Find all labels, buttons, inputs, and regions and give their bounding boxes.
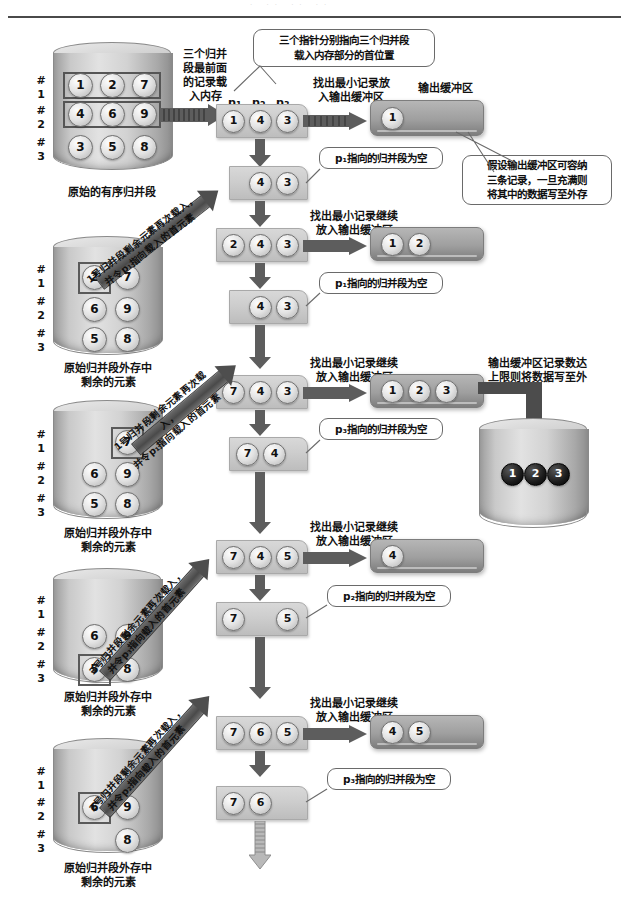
arrow-down xyxy=(249,201,271,227)
callout-three-pointers: 三个指针分别指向三个归并段 载入内存部分的首位置 xyxy=(253,29,435,67)
seg-marker: # xyxy=(34,828,48,842)
seg-marker: 2 xyxy=(34,118,48,132)
record: 4 xyxy=(249,546,272,569)
arrow-to-output-4 xyxy=(303,549,367,567)
callout-leader xyxy=(306,605,330,621)
arrow-down xyxy=(249,575,271,601)
disk-caption: 原始归并段外存中 剩余的元素 xyxy=(40,527,176,555)
seg-marker: 3 xyxy=(34,341,48,355)
record: 5 xyxy=(276,722,299,745)
seg-marker: # xyxy=(34,460,48,474)
arrow-to-output-5 xyxy=(303,725,367,743)
record: 1 xyxy=(68,73,93,98)
record: 5 xyxy=(276,546,299,569)
record: 8 xyxy=(132,135,157,160)
seg-marker: # xyxy=(34,295,48,309)
record: 7 xyxy=(132,73,157,98)
seg-marker: # xyxy=(34,658,48,672)
record: 1 xyxy=(222,110,245,133)
seg-marker: 3 xyxy=(34,842,48,856)
callout-leader xyxy=(306,293,324,309)
record: 7 xyxy=(236,443,259,466)
callout-p1-empty-1: p₁指向的归并段为空 xyxy=(319,147,443,169)
seg-marker: 1 xyxy=(34,277,48,291)
disk-caption-initial: 原始的有序归并段 xyxy=(42,186,182,200)
record: 3 xyxy=(276,234,299,257)
record: 2 xyxy=(100,73,125,98)
record: 9 xyxy=(132,102,157,127)
callout-p1-empty-2: p₁指向的归并段为空 xyxy=(319,272,443,294)
disk-caption: 原始归并段外存中 剩余的元素 xyxy=(40,362,176,390)
record: 2 xyxy=(524,463,547,486)
record: 2 xyxy=(408,380,431,403)
arrow-to-output-3 xyxy=(303,384,367,402)
arrow-down xyxy=(249,410,271,436)
record: 3 xyxy=(68,135,93,160)
record: 2 xyxy=(408,233,431,256)
record: 1 xyxy=(501,463,524,486)
callout-leader xyxy=(306,440,324,456)
seg-marker: # xyxy=(34,428,48,442)
record: 3 xyxy=(276,296,299,319)
disk-caption: 原始归并段外存中 剩余的元素 xyxy=(40,691,176,719)
page-header-rule xyxy=(8,16,621,18)
callout-p3-empty-1: p₃指向的归并段为空 xyxy=(319,418,443,440)
seg-marker: # xyxy=(34,626,48,640)
seg-marker: # xyxy=(34,765,48,779)
output-buffer-title: 输出缓冲区 xyxy=(400,82,490,96)
record: 3 xyxy=(276,381,299,404)
record: 5 xyxy=(100,135,125,160)
record: 7 xyxy=(222,792,245,815)
write-to-disk-label: 输出缓冲区记录数达 上限则将数据写至外 xyxy=(462,357,612,385)
record: 1 xyxy=(381,233,404,256)
record: 4 xyxy=(381,721,404,744)
seg-marker: 1 xyxy=(34,779,48,793)
record: 4 xyxy=(249,296,272,319)
record: 5 xyxy=(408,721,431,744)
seg-marker: 3 xyxy=(34,150,48,164)
arrow-down xyxy=(249,637,271,699)
record: 3 xyxy=(547,463,570,486)
load-front-label: 三个归并 段最前面 的记录载 入内存 xyxy=(176,48,234,104)
arrow-down xyxy=(249,325,271,369)
seg-marker: # xyxy=(34,263,48,277)
record: 3 xyxy=(276,172,299,195)
seg-marker: 3 xyxy=(34,672,48,686)
seg-marker: 1 xyxy=(34,442,48,456)
record: 5 xyxy=(82,492,107,517)
record: 2 xyxy=(222,234,245,257)
record: 7 xyxy=(222,546,245,569)
record: 7 xyxy=(222,722,245,745)
page-header-text: · ·· ·· ·· xyxy=(250,1,450,11)
arrow-down-final xyxy=(249,821,271,873)
seg-marker: # xyxy=(34,327,48,341)
seg-marker: # xyxy=(34,796,48,810)
record: 6 xyxy=(249,792,272,815)
seg-marker: # xyxy=(34,492,48,506)
callout-leader xyxy=(232,66,292,92)
record: 7 xyxy=(222,608,245,631)
record: 4 xyxy=(68,102,93,127)
arrow-to-output-2 xyxy=(303,237,367,255)
seg-marker: 2 xyxy=(34,474,48,488)
record: 4 xyxy=(249,381,272,404)
seg-marker: 2 xyxy=(34,640,48,654)
record: 1 xyxy=(381,380,404,403)
record: 4 xyxy=(249,172,272,195)
record: 4 xyxy=(249,110,272,133)
seg-marker: # xyxy=(34,136,48,150)
callout-leader xyxy=(306,789,330,805)
callout-p3-empty-2: p₃指向的归并段为空 xyxy=(327,768,451,790)
arrow-down xyxy=(249,139,271,167)
record: 4 xyxy=(263,443,286,466)
record: 3 xyxy=(276,110,299,133)
record: 6 xyxy=(100,102,125,127)
callout-leader xyxy=(452,132,522,174)
record: 8 xyxy=(115,828,140,853)
arrow-to-output-1 xyxy=(303,112,367,130)
seg-marker: 2 xyxy=(34,810,48,824)
seg-marker: 3 xyxy=(34,506,48,520)
record: 4 xyxy=(249,234,272,257)
record: 6 xyxy=(82,462,107,487)
seg-marker: # xyxy=(34,594,48,608)
